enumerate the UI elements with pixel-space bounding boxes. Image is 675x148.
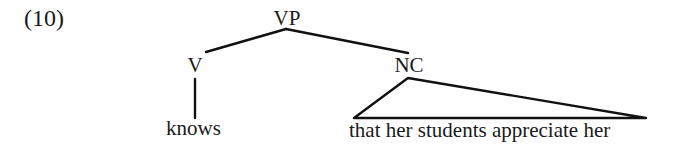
branch-vp-v (206, 29, 286, 52)
node-nc: NC (394, 55, 423, 76)
node-v: V (187, 55, 202, 76)
node-vp: VP (274, 8, 301, 29)
leaf-knows: knows (166, 118, 221, 139)
nc-triangle (354, 78, 646, 118)
leaf-clause: that her students appreciate her (349, 120, 610, 141)
branch-vp-nc (286, 29, 408, 53)
